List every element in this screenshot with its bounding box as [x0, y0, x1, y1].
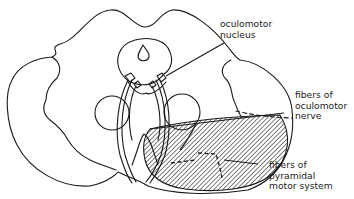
left-tegmentum-boundary [44, 57, 116, 170]
cerebral-aqueduct [138, 45, 149, 61]
oculomotor-nucleus-right [157, 73, 166, 82]
oculomotor-nucleus-left [125, 73, 135, 82]
leader-oculomotor-nucleus [166, 43, 224, 76]
pyramidal-tract-hatch [144, 115, 288, 191]
label-fibers-pyramidal: fibers of pyramidal motor system [269, 160, 333, 192]
label-oculomotor-nucleus: oculomotor nucleus [220, 19, 272, 40]
right-tegmentum-boundary [222, 60, 242, 118]
red-nucleus-left [95, 96, 129, 130]
label-fibers-oculomotor-nerve: fibers of oculomotor nerve [295, 90, 347, 122]
oculomotor-fiber-left2-outer [129, 86, 136, 140]
periaqueductal-gray [118, 39, 172, 85]
